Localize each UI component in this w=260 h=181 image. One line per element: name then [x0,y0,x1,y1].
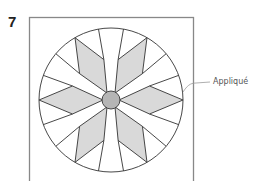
applique-label: Appliqué [213,77,248,86]
center-circle [102,91,120,109]
leader-line [183,82,210,92]
quilt-block-diagram [0,0,260,181]
